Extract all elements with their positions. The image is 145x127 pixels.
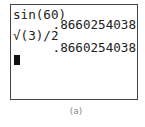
block-cursor-icon (14, 55, 20, 65)
input-expression-sqrt: √(3)/2 (13, 30, 59, 41)
calculator-screen: sin(60) .8660254038 √(3)/2 .8660254038 (10, 4, 138, 100)
figure-caption: (a) (0, 106, 145, 116)
result-sqrt: .8660254038 (53, 42, 136, 53)
result-sin: .8660254038 (53, 19, 136, 30)
